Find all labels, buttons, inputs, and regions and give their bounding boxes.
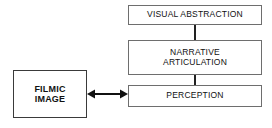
connector-visual-abstraction-to-narrative-articulation — [194, 25, 196, 40]
diagram-canvas: VISUAL ABSTRACTION NARRATIVE ARTICULATIO… — [0, 0, 272, 128]
node-filmic-image[interactable]: FILMIC IMAGE — [13, 70, 87, 118]
node-filmic-image-label: FILMIC IMAGE — [34, 84, 65, 104]
arrow-head-right — [120, 90, 128, 99]
node-perception-label: PERCEPTION — [166, 91, 223, 101]
double-arrow-icon — [87, 86, 128, 102]
node-narrative-articulation[interactable]: NARRATIVE ARTICULATION — [128, 40, 262, 75]
node-perception[interactable]: PERCEPTION — [128, 85, 262, 107]
connector-narrative-articulation-to-perception — [194, 75, 196, 85]
node-visual-abstraction-label: VISUAL ABSTRACTION — [147, 10, 243, 20]
node-visual-abstraction[interactable]: VISUAL ABSTRACTION — [128, 5, 262, 25]
arrow-head-left — [87, 90, 95, 99]
node-narrative-articulation-label: NARRATIVE ARTICULATION — [163, 48, 227, 67]
